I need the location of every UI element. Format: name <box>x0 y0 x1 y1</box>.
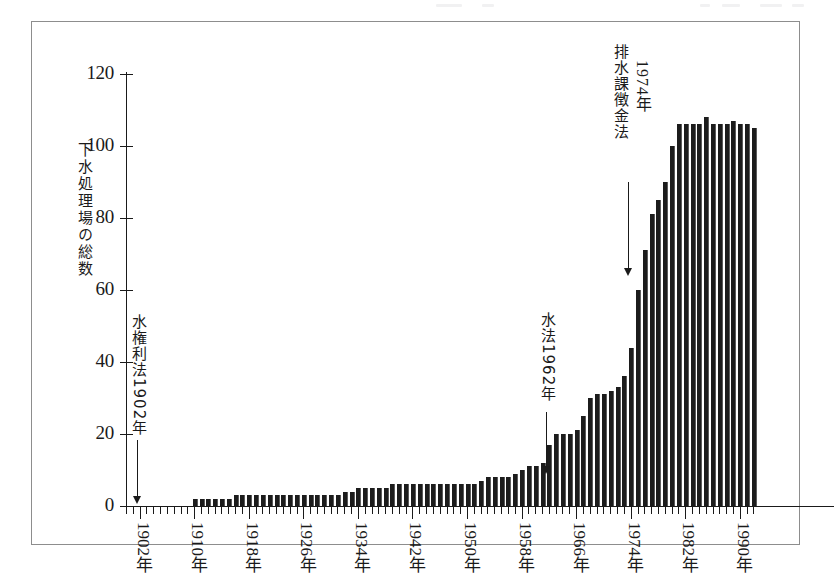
x-tick-mark-minor <box>447 507 448 514</box>
x-tick-mark-minor <box>290 507 291 514</box>
x-tick-mark-minor <box>460 507 461 514</box>
x-tick-mark-minor <box>706 507 707 514</box>
bar <box>581 416 586 506</box>
bar <box>704 117 709 506</box>
bar <box>588 398 593 506</box>
bar <box>418 484 423 506</box>
x-tick-mark-minor <box>665 507 666 514</box>
y-tick-label: 120 <box>62 63 114 82</box>
bar <box>425 484 430 506</box>
y-tick-label: 60 <box>62 279 114 298</box>
x-tick-mark-minor <box>419 507 420 514</box>
bar <box>718 124 723 506</box>
bar <box>288 495 293 506</box>
x-tick-mark-minor <box>242 507 243 514</box>
x-tick-mark-minor <box>481 507 482 514</box>
bar <box>193 499 198 506</box>
annotation-text: 水権利法1902年 <box>129 314 150 436</box>
x-tick-mark-minor <box>256 507 257 514</box>
bar <box>206 499 211 506</box>
x-tick-mark-minor <box>672 507 673 514</box>
scan-artifact-strip <box>0 0 822 16</box>
bar <box>725 124 730 506</box>
bar <box>670 146 675 506</box>
x-tick-mark-minor <box>392 507 393 514</box>
bar <box>513 474 518 506</box>
bar <box>506 477 511 506</box>
bar <box>656 200 661 506</box>
x-tick-mark-minor <box>433 507 434 514</box>
x-tick-mark-minor <box>719 507 720 514</box>
x-tick-mark-minor <box>146 507 147 514</box>
bar <box>343 492 348 506</box>
x-tick-mark-major <box>194 507 195 519</box>
x-tick-mark-minor <box>474 507 475 514</box>
bar <box>411 484 416 506</box>
annotation-arrow-line <box>628 182 629 268</box>
x-tick-mark-minor <box>221 507 222 514</box>
bar <box>268 495 273 506</box>
x-tick-mark-major <box>576 507 577 519</box>
bar <box>329 495 334 506</box>
bar <box>315 495 320 506</box>
x-tick-mark-minor <box>610 507 611 514</box>
x-tick-mark-minor <box>215 507 216 514</box>
bar <box>493 477 498 506</box>
x-tick-mark-minor <box>569 507 570 514</box>
bar <box>384 488 389 506</box>
y-tick-label-text: 120 <box>70 63 114 82</box>
x-tick-mark-minor <box>133 507 134 514</box>
bar <box>697 124 702 506</box>
bar <box>691 124 696 506</box>
x-tick-mark-minor <box>590 507 591 514</box>
bar <box>438 484 443 506</box>
bar <box>731 121 736 506</box>
y-tick-label-text: 60 <box>70 279 114 298</box>
x-tick-mark-minor <box>699 507 700 514</box>
bar <box>200 499 205 506</box>
x-tick-mark-minor <box>624 507 625 514</box>
bar <box>377 488 382 506</box>
x-tick-mark-major <box>140 507 141 519</box>
bar <box>534 466 539 506</box>
x-tick-mark-minor <box>726 507 727 514</box>
figure-frame: 下水処理場の総数 020406080100120 1902年1910年1918年… <box>31 21 800 545</box>
x-tick-mark-minor <box>603 507 604 514</box>
x-tick-mark-minor <box>324 507 325 514</box>
bar <box>213 499 218 506</box>
x-tick-mark-minor <box>208 507 209 514</box>
x-tick-mark-minor <box>174 507 175 514</box>
x-tick-mark-minor <box>501 507 502 514</box>
x-tick-mark-minor <box>181 507 182 514</box>
x-tick-mark-minor <box>385 507 386 514</box>
x-tick-mark-minor <box>535 507 536 514</box>
annotation-arrow-head <box>624 268 632 276</box>
bar <box>397 484 402 506</box>
x-tick-mark-minor <box>187 507 188 514</box>
bar <box>336 495 341 506</box>
x-tick-mark-major <box>685 507 686 519</box>
bar <box>643 250 648 506</box>
y-tick-label: 0 <box>62 495 114 514</box>
x-tick-mark-minor <box>487 507 488 514</box>
bar <box>602 394 607 506</box>
x-tick-mark-minor <box>228 507 229 514</box>
bar <box>234 495 239 506</box>
y-tick-label-text: 20 <box>70 423 114 442</box>
x-tick-label: 1958年 <box>513 522 538 573</box>
annotation-text-line2: 1974年 <box>630 60 654 113</box>
annotation-text: 排水課徴金法 <box>611 44 632 140</box>
bar <box>479 481 484 506</box>
x-tick-mark-minor <box>269 507 270 514</box>
x-tick-mark-major <box>740 507 741 519</box>
bar <box>227 499 232 506</box>
bar <box>240 495 245 506</box>
bar <box>261 495 266 506</box>
x-tick-mark-minor <box>160 507 161 514</box>
bar <box>745 124 750 506</box>
x-tick-mark-minor <box>310 507 311 514</box>
bar <box>527 466 532 506</box>
x-tick-label: 1910年 <box>185 522 210 573</box>
x-tick-mark-minor <box>262 507 263 514</box>
bar <box>609 391 614 506</box>
